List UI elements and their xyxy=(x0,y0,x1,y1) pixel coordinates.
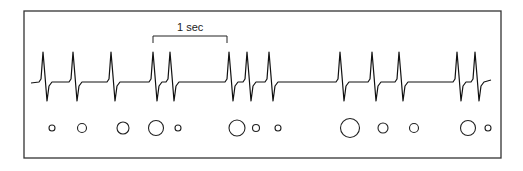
ecg-trace xyxy=(31,52,491,101)
circle-marker xyxy=(341,119,360,138)
circle-marker xyxy=(149,121,164,136)
circle-marker xyxy=(78,124,87,133)
figure-frame xyxy=(24,11,501,158)
circle-marker xyxy=(253,125,260,132)
circle-markers xyxy=(49,119,491,138)
circle-marker xyxy=(229,120,245,136)
circle-marker xyxy=(378,123,388,133)
circle-marker xyxy=(117,122,129,134)
scale-bar-label: 1 sec xyxy=(177,21,203,33)
circle-marker xyxy=(461,121,476,136)
circle-marker xyxy=(485,125,491,131)
ecg-figure xyxy=(0,0,523,171)
circle-marker xyxy=(275,125,281,131)
circle-marker xyxy=(175,125,181,131)
circle-marker xyxy=(410,124,419,133)
scale-bar xyxy=(153,36,227,43)
circle-marker xyxy=(49,125,55,131)
